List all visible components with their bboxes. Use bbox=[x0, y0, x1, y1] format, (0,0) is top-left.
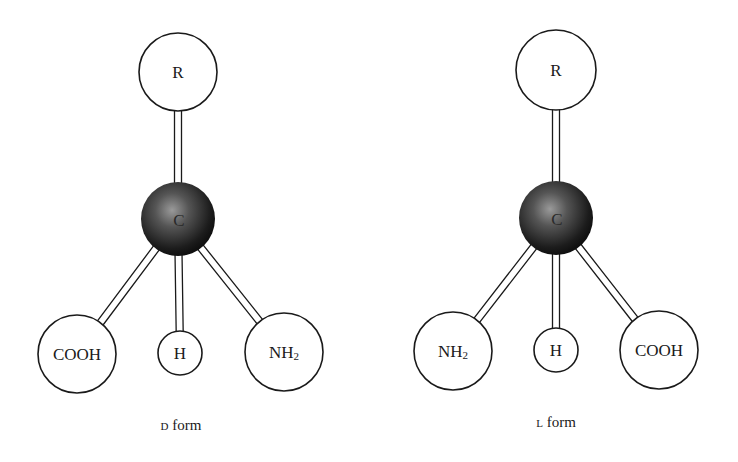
amino-acid-enantiomers-diagram: CRCOOHHNH2D form CRNH2HCOOHL form bbox=[0, 0, 738, 462]
bond-h bbox=[553, 244, 560, 330]
group-h-label: H bbox=[174, 344, 186, 363]
bond-cooh bbox=[569, 236, 639, 323]
bond-nh2 bbox=[473, 236, 543, 324]
group-r-label: R bbox=[172, 63, 184, 82]
d-form-molecule: CRCOOHHNH2D form bbox=[38, 33, 323, 433]
bond-h bbox=[175, 245, 183, 333]
bond-cooh bbox=[96, 238, 165, 327]
l-form-caption: L form bbox=[536, 414, 576, 430]
carbon-label: C bbox=[173, 211, 184, 230]
bond-r bbox=[553, 108, 560, 192]
group-cooh-label: COOH bbox=[635, 341, 683, 360]
group-cooh-label: COOH bbox=[53, 345, 101, 364]
l-form-molecule: CRNH2HCOOHL form bbox=[414, 30, 698, 430]
bond-r bbox=[175, 109, 182, 193]
group-h-label: H bbox=[550, 341, 562, 360]
carbon-label: C bbox=[551, 210, 562, 229]
d-form-caption: D form bbox=[161, 417, 202, 433]
bond-nh2 bbox=[191, 237, 263, 325]
group-r-label: R bbox=[550, 61, 562, 80]
